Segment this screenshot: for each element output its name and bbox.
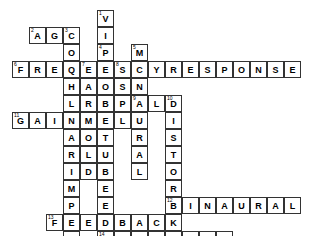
- crossword-cell[interactable]: 9A: [131, 95, 148, 112]
- crossword-cell[interactable]: R: [250, 197, 267, 214]
- crossword-cell[interactable]: R: [165, 180, 182, 197]
- crossword-cell[interactable]: A: [216, 197, 233, 214]
- crossword-cell[interactable]: L: [131, 163, 148, 180]
- crossword-cell[interactable]: L: [216, 231, 233, 236]
- crossword-cell[interactable]: E: [97, 61, 114, 78]
- crossword-cell[interactable]: B: [97, 163, 114, 180]
- crossword-cell[interactable]: A: [80, 78, 97, 95]
- crossword-cell[interactable]: O: [97, 78, 114, 95]
- crossword-cell[interactable]: M: [80, 112, 97, 129]
- crossword-cell[interactable]: O: [63, 44, 80, 61]
- cell-letter: P: [98, 47, 113, 60]
- crossword-cell[interactable]: O: [182, 231, 199, 236]
- crossword-cell[interactable]: 12B: [165, 197, 182, 214]
- crossword-cell[interactable]: E: [97, 180, 114, 197]
- crossword-cell[interactable]: A: [131, 146, 148, 163]
- crossword-cell[interactable]: I: [97, 27, 114, 44]
- crossword-cell[interactable]: A: [63, 129, 80, 146]
- crossword-cell[interactable]: 4P: [97, 44, 114, 61]
- crossword-cell[interactable]: I: [165, 112, 182, 129]
- crossword-cell[interactable]: S: [165, 129, 182, 146]
- crossword-cell[interactable]: P: [114, 95, 131, 112]
- crossword-cell[interactable]: E: [63, 214, 80, 231]
- crossword-cell[interactable]: I: [199, 231, 216, 236]
- crossword-cell[interactable]: R: [29, 61, 46, 78]
- crossword-cell[interactable]: E: [114, 231, 131, 236]
- crossword-cell[interactable]: C: [148, 214, 165, 231]
- crossword-cell[interactable]: M: [63, 180, 80, 197]
- crossword-cell[interactable]: A: [131, 214, 148, 231]
- crossword-cell[interactable]: E: [148, 231, 165, 236]
- cell-letter: E: [81, 64, 96, 77]
- crossword-cell[interactable]: D: [97, 214, 114, 231]
- crossword-cell[interactable]: H: [63, 78, 80, 95]
- crossword-cell[interactable]: 10D: [165, 95, 182, 112]
- crossword-cell[interactable]: 13F: [46, 214, 63, 231]
- crossword-cell[interactable]: N: [131, 78, 148, 95]
- crossword-cell[interactable]: 3C: [63, 27, 80, 44]
- cell-letter: Y: [149, 64, 164, 77]
- crossword-cell[interactable]: E: [97, 197, 114, 214]
- crossword-cell[interactable]: R: [165, 61, 182, 78]
- crossword-cell[interactable]: 14T: [97, 231, 114, 236]
- crossword-cell[interactable]: G: [46, 27, 63, 44]
- crossword-cell[interactable]: I: [46, 112, 63, 129]
- crossword-cell[interactable]: S: [114, 78, 131, 95]
- crossword-cell[interactable]: 8S: [114, 61, 131, 78]
- crossword-cell[interactable]: R: [131, 129, 148, 146]
- crossword-cell[interactable]: S: [267, 61, 284, 78]
- crossword-cell[interactable]: A: [267, 197, 284, 214]
- crossword-cell[interactable]: O: [165, 163, 182, 180]
- crossword-cell[interactable]: O: [80, 129, 97, 146]
- crossword-cell[interactable]: E: [284, 61, 301, 78]
- crossword-cell[interactable]: D: [80, 163, 97, 180]
- crossword-cell[interactable]: U: [131, 112, 148, 129]
- crossword-cell[interactable]: 1V: [97, 10, 114, 27]
- cell-letter: L: [132, 234, 147, 236]
- crossword-cell[interactable]: B: [114, 214, 131, 231]
- crossword-cell[interactable]: A: [63, 231, 80, 236]
- crossword-cell[interactable]: S: [199, 61, 216, 78]
- crossword-cell[interactable]: A: [29, 112, 46, 129]
- crossword-cell[interactable]: L: [131, 231, 148, 236]
- cell-letter: U: [98, 149, 113, 162]
- crossword-cell[interactable]: T: [165, 146, 182, 163]
- crossword-cell[interactable]: U: [97, 146, 114, 163]
- crossword-cell[interactable]: 7E: [80, 61, 97, 78]
- crossword-cell[interactable]: Q: [63, 61, 80, 78]
- crossword-cell[interactable]: P: [63, 197, 80, 214]
- crossword-cell[interactable]: C: [165, 231, 182, 236]
- crossword-cell[interactable]: C: [131, 61, 148, 78]
- crossword-cell[interactable]: N: [199, 197, 216, 214]
- crossword-cell[interactable]: L: [284, 197, 301, 214]
- crossword-cell[interactable]: L: [80, 146, 97, 163]
- crossword-cell[interactable]: O: [233, 61, 250, 78]
- crossword-cell[interactable]: N: [63, 112, 80, 129]
- cell-letter: I: [166, 115, 181, 128]
- crossword-cell[interactable]: 6F: [12, 61, 29, 78]
- crossword-cell[interactable]: 2A: [29, 27, 46, 44]
- crossword-cell[interactable]: R: [63, 146, 80, 163]
- crossword-cell[interactable]: B: [97, 95, 114, 112]
- crossword-cell[interactable]: L: [63, 95, 80, 112]
- crossword-cell[interactable]: K: [165, 214, 182, 231]
- cell-letter: K: [166, 217, 181, 230]
- crossword-cell[interactable]: L: [148, 95, 165, 112]
- crossword-cell[interactable]: N: [250, 61, 267, 78]
- crossword-cell[interactable]: R: [80, 95, 97, 112]
- cell-letter: D: [98, 217, 113, 230]
- crossword-cell[interactable]: 5M: [131, 44, 148, 61]
- crossword-cell[interactable]: E: [182, 61, 199, 78]
- crossword-cell[interactable]: L: [114, 112, 131, 129]
- crossword-cell[interactable]: Y: [148, 61, 165, 78]
- crossword-cell[interactable]: I: [63, 163, 80, 180]
- crossword-cell[interactable]: E: [97, 112, 114, 129]
- crossword-cell[interactable]: P: [216, 61, 233, 78]
- crossword-cell[interactable]: E: [80, 214, 97, 231]
- crossword-cell[interactable]: U: [233, 197, 250, 214]
- crossword-cell[interactable]: E: [46, 61, 63, 78]
- crossword-cell[interactable]: I: [182, 197, 199, 214]
- crossword-cell[interactable]: T: [97, 129, 114, 146]
- crossword-cell[interactable]: 11G: [12, 112, 29, 129]
- cell-letter: F: [47, 217, 62, 230]
